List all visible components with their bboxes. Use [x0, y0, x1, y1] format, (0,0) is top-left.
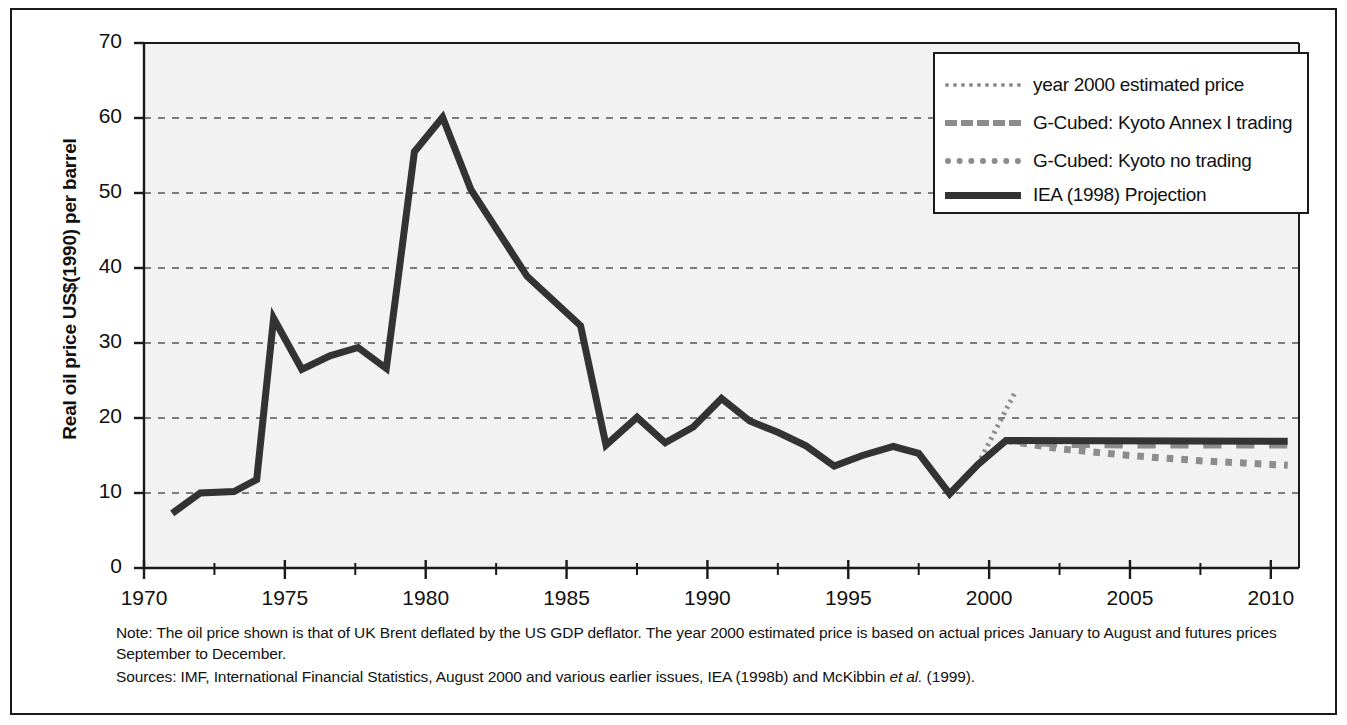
note-text: Note: The oil price shown is that of UK … [116, 622, 1296, 664]
x-tick-label-1970: 1970 [104, 586, 184, 610]
x-tick-label-2000: 2000 [949, 586, 1029, 610]
x-tick-label-1985: 1985 [527, 586, 607, 610]
legend-swatch-solid-icon [945, 185, 1021, 205]
sources-suffix: (1999). [922, 668, 975, 685]
plot-area-wrapper: Real oil price US$(1990) per barrel 0102… [12, 10, 1339, 610]
x-tick-label-2010: 2010 [1231, 586, 1311, 610]
legend-label-2: G-Cubed: Kyoto no trading [1033, 150, 1252, 172]
legend-label-1: G-Cubed: Kyoto Annex I trading [1033, 112, 1292, 134]
legend-label-3: IEA (1998) Projection [1033, 184, 1206, 206]
y-tick-label-50: 50 [62, 179, 122, 203]
sources-text: Sources: IMF, International Financial St… [116, 666, 1296, 687]
sources-prefix: Sources: IMF, International Financial St… [116, 668, 889, 685]
sources-italic: et al. [889, 668, 922, 685]
y-tick-label-10: 10 [62, 479, 122, 503]
legend-item-year-2000-estimated-price[interactable]: year 2000 estimated price [945, 68, 1244, 102]
y-tick-label-0: 0 [62, 554, 122, 578]
y-tick-label-70: 70 [62, 29, 122, 53]
legend-swatch-square-dots-icon [945, 151, 1021, 171]
legend-item-kyoto-annex-i-trading[interactable]: G-Cubed: Kyoto Annex I trading [945, 106, 1292, 140]
y-tick-label-40: 40 [62, 254, 122, 278]
x-tick-label-1980: 1980 [386, 586, 466, 610]
x-tick-label-1995: 1995 [808, 586, 888, 610]
chart-legend: year 2000 estimated price G-Cubed: Kyoto… [933, 52, 1309, 214]
legend-item-kyoto-no-trading[interactable]: G-Cubed: Kyoto no trading [945, 144, 1252, 178]
figure-panel: Real oil price US$(1990) per barrel 0102… [10, 8, 1337, 715]
x-tick-label-1990: 1990 [667, 586, 747, 610]
y-tick-label-20: 20 [62, 404, 122, 428]
x-tick-label-2005: 2005 [1090, 586, 1170, 610]
legend-label-0: year 2000 estimated price [1033, 74, 1244, 96]
x-tick-label-1975: 1975 [245, 586, 325, 610]
footnotes-block: Note: The oil price shown is that of UK … [116, 622, 1296, 687]
legend-swatch-fine-dots-icon [945, 75, 1021, 95]
legend-swatch-long-dash-icon [945, 113, 1021, 133]
legend-item-iea-projection[interactable]: IEA (1998) Projection [945, 178, 1206, 212]
y-tick-label-30: 30 [62, 329, 122, 353]
y-tick-label-60: 60 [62, 104, 122, 128]
